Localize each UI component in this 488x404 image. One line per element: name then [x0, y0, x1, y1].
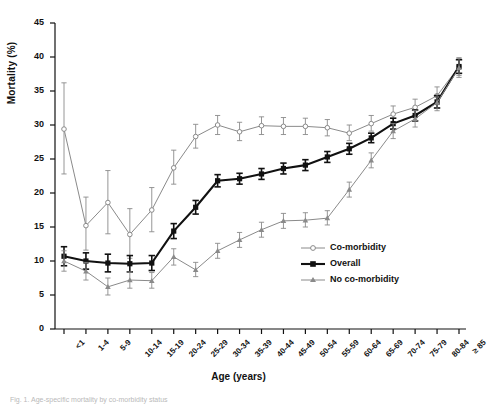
y-tick-label: 0 [18, 323, 44, 333]
series-layer [61, 58, 462, 295]
y-tick-label: 30 [18, 119, 44, 129]
legend-label: No co-morbidity [330, 274, 399, 284]
y-tick-label: 25 [18, 153, 44, 163]
y-tick-label: 35 [18, 85, 44, 95]
x-tick-marks [64, 329, 459, 334]
y-tick-label: 40 [18, 51, 44, 61]
y-tick-label: 45 [18, 17, 44, 27]
legend-label: Overall [330, 258, 361, 268]
y-tick-label: 20 [18, 187, 44, 197]
legend-label: Co-morbidity [330, 242, 386, 252]
filled-square-icon [300, 258, 326, 270]
series-overall [61, 60, 462, 272]
figure-caption: Fig. 1. Age-specific mortality by co-mor… [10, 396, 470, 404]
open-circle-icon [300, 242, 326, 254]
y-tick-marks [50, 23, 55, 329]
filled-triangle-icon [300, 274, 326, 286]
y-tick-label: 15 [18, 221, 44, 231]
y-tick-label: 10 [18, 255, 44, 265]
y-tick-label: 5 [18, 289, 44, 299]
